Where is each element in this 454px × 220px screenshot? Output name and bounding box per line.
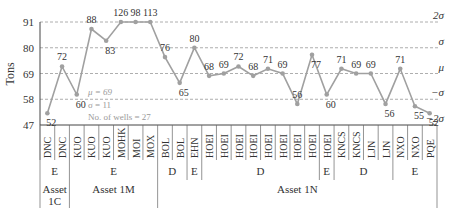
category-label: HOEI bbox=[278, 134, 289, 158]
data-point bbox=[60, 64, 65, 69]
type-group-label: D bbox=[257, 165, 265, 177]
category-label: KUO bbox=[101, 136, 112, 158]
data-point bbox=[383, 102, 388, 107]
category-label: BOL bbox=[160, 138, 171, 158]
category-label: MOX bbox=[145, 134, 156, 158]
data-label: 88 bbox=[86, 14, 96, 25]
category-label: LJN bbox=[381, 141, 392, 158]
category-label: HOEI bbox=[292, 134, 303, 158]
data-point bbox=[427, 111, 432, 116]
x-axis-categories: DNCDNCKUOKUOKUOMOHKMOIMOXBOLBOLEHNHOEIHO… bbox=[40, 125, 437, 208]
data-point bbox=[221, 71, 226, 76]
data-point bbox=[354, 71, 359, 76]
sigma-label: μ bbox=[437, 61, 444, 73]
data-point bbox=[236, 64, 241, 69]
type-group-label: D bbox=[168, 165, 176, 177]
type-group-label: E bbox=[110, 165, 117, 177]
data-label: 71 bbox=[263, 54, 273, 65]
stat-mean: μ = 69 bbox=[87, 87, 113, 97]
data-label: 80 bbox=[189, 33, 199, 44]
category-label: HOEI bbox=[204, 134, 215, 158]
data-label: 68 bbox=[248, 61, 258, 72]
y-tick-label: 69 bbox=[23, 68, 35, 80]
data-label: 98 bbox=[131, 7, 141, 18]
type-group-label: E bbox=[51, 165, 58, 177]
data-point bbox=[251, 74, 256, 79]
data-label: 65 bbox=[179, 87, 189, 98]
data-label: 126 bbox=[113, 7, 128, 18]
data-point bbox=[89, 27, 94, 32]
data-label: 71 bbox=[336, 54, 346, 65]
data-label: 76 bbox=[160, 42, 170, 53]
data-point bbox=[207, 74, 212, 79]
data-point bbox=[413, 104, 418, 109]
data-label: 69 bbox=[219, 59, 229, 70]
category-label: HOEI bbox=[234, 134, 245, 158]
data-label: 69 bbox=[278, 59, 288, 70]
type-group-label: E bbox=[323, 165, 330, 177]
data-label: 56 bbox=[385, 108, 395, 119]
asset-group-label: Asset 1M bbox=[92, 183, 135, 195]
data-point bbox=[339, 67, 344, 72]
category-label: MOI bbox=[131, 139, 142, 158]
data-label: 72 bbox=[234, 51, 244, 62]
data-point bbox=[280, 71, 285, 76]
data-series-line: 5272608883126981137665806869726871695677… bbox=[45, 7, 439, 128]
category-label: KNCS bbox=[351, 131, 362, 158]
asset-group-label: 1C bbox=[48, 195, 61, 207]
data-label: 113 bbox=[143, 7, 158, 18]
data-point bbox=[398, 67, 403, 72]
category-label: BOL bbox=[175, 138, 186, 158]
category-label: HOEI bbox=[263, 134, 274, 158]
data-point bbox=[177, 81, 182, 86]
asset-group-label: Asset bbox=[42, 183, 66, 195]
sigma-label: 2σ bbox=[433, 9, 445, 21]
category-label: HOEI bbox=[248, 134, 259, 158]
y-tick-label: 58 bbox=[23, 93, 35, 105]
data-label: 60 bbox=[76, 99, 86, 110]
category-label: KUO bbox=[86, 136, 97, 158]
category-label: HOEI bbox=[219, 134, 230, 158]
stat-wells: No. of wells = 27 bbox=[88, 112, 151, 122]
data-label: 60 bbox=[326, 99, 336, 110]
data-label: 68 bbox=[204, 61, 214, 72]
data-point bbox=[133, 20, 138, 25]
category-label: HOEI bbox=[307, 134, 318, 158]
category-label: KUO bbox=[72, 136, 83, 158]
data-point bbox=[324, 92, 329, 97]
data-point bbox=[369, 71, 374, 76]
data-label: 77 bbox=[311, 59, 321, 70]
sigma-label: σ bbox=[439, 35, 445, 47]
sigma-label: −σ bbox=[431, 86, 444, 98]
type-group-label: E bbox=[191, 165, 198, 177]
data-label: 72 bbox=[57, 51, 67, 62]
data-point bbox=[295, 102, 300, 107]
stats-annotation: μ = 69 σ = 11 No. of wells = 27 bbox=[87, 87, 151, 122]
y-axis-label: Tons bbox=[3, 62, 17, 85]
y-tick-label: 91 bbox=[23, 16, 34, 28]
data-label: 69 bbox=[366, 59, 376, 70]
data-point bbox=[119, 20, 124, 25]
category-label: DNC bbox=[42, 137, 53, 158]
data-label: 55 bbox=[414, 110, 424, 121]
data-label: 69 bbox=[351, 59, 361, 70]
data-label: 83 bbox=[105, 45, 115, 56]
data-label: 71 bbox=[395, 54, 405, 65]
category-label: NXO bbox=[410, 136, 421, 158]
category-label: MOHK bbox=[116, 127, 127, 158]
data-point bbox=[266, 67, 271, 72]
category-label: HOEI bbox=[322, 134, 333, 158]
data-point bbox=[310, 52, 315, 57]
category-label: LJN bbox=[366, 141, 377, 158]
data-point bbox=[163, 55, 168, 60]
category-label: DNC bbox=[57, 137, 68, 158]
asset-group-label: Asset 1N bbox=[277, 183, 318, 195]
data-label: 56 bbox=[292, 89, 302, 100]
control-chart: 2σσμ−σ−2σ 4758698091 Tons 52726088831269… bbox=[0, 0, 454, 220]
type-group-label: E bbox=[412, 165, 419, 177]
data-point bbox=[74, 92, 79, 97]
category-label: PQE bbox=[425, 139, 436, 158]
category-label: KNCS bbox=[336, 131, 347, 158]
data-point bbox=[45, 111, 50, 116]
data-point bbox=[148, 20, 153, 25]
